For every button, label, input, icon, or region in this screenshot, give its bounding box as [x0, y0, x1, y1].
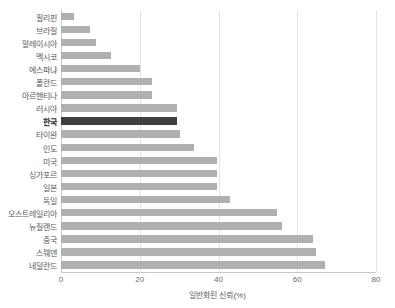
bar	[61, 144, 194, 151]
bar	[61, 65, 140, 72]
bar	[61, 104, 177, 111]
y-axis-tick-label: 뉴질랜드	[0, 221, 57, 232]
y-axis-tick-label: 멕시코	[0, 51, 57, 62]
x-axis-tick-label: 80	[372, 275, 381, 284]
bar-row	[61, 246, 376, 259]
bar	[61, 261, 325, 268]
bar	[61, 248, 316, 255]
y-axis-tick-label: 한국	[0, 116, 57, 127]
bar	[61, 130, 180, 137]
x-axis-line	[61, 272, 376, 273]
x-axis-tick-label: 40	[214, 275, 223, 284]
bar-row	[61, 62, 376, 75]
y-axis-tick-label: 에스파냐	[0, 64, 57, 75]
x-axis-tick-label: 60	[293, 275, 302, 284]
y-axis-tick-label: 말레이시아	[0, 38, 57, 49]
bar	[61, 78, 152, 85]
bar	[61, 157, 217, 164]
y-axis-tick-label: 싱가포르	[0, 169, 57, 180]
y-axis-tick-label: 폴란드	[0, 77, 57, 88]
bar	[61, 222, 282, 229]
y-axis-tick-label: 타이완	[0, 129, 57, 140]
bar-row	[61, 10, 376, 23]
bar	[61, 196, 230, 203]
y-axis-tick-label: 중국	[0, 234, 57, 245]
bar	[61, 52, 111, 59]
bar	[61, 39, 96, 46]
bar-row	[61, 180, 376, 193]
y-axis-tick-label: 필리핀	[0, 12, 57, 23]
x-axis-title-label: 일반화된 신뢰(%)	[189, 289, 246, 300]
bar	[61, 235, 313, 242]
bar-row	[61, 36, 376, 49]
y-axis-tick-label: 일본	[0, 182, 57, 193]
bar	[61, 209, 277, 216]
bar-row	[61, 193, 376, 206]
x-axis-title: 일반화된 신뢰(%)	[0, 289, 395, 300]
y-axis-tick-label: 스웨덴	[0, 247, 57, 258]
bar-row	[61, 102, 376, 115]
x-axis-tick-label: 0	[59, 275, 63, 284]
y-axis-tick-label: 아르헨티나	[0, 90, 57, 101]
y-axis-tick-label: 인도	[0, 143, 57, 154]
bar	[61, 26, 90, 33]
bar-row	[61, 220, 376, 233]
bar-row	[61, 233, 376, 246]
bar-row	[61, 141, 376, 154]
bar-row	[61, 115, 376, 128]
y-axis-tick-label: 러시아	[0, 103, 57, 114]
bar	[61, 183, 217, 190]
bar-row	[61, 23, 376, 36]
plot-area	[61, 10, 376, 272]
bar-row	[61, 89, 376, 102]
y-axis-tick-label: 오스트레일리아	[0, 208, 57, 219]
bar	[61, 170, 217, 177]
bar	[61, 91, 152, 98]
bar-chart: 필리핀브라질말레이시아멕시코에스파냐폴란드아르헨티나러시아한국타이완인도미국싱가…	[0, 0, 395, 308]
y-axis-tick-label: 독일	[0, 195, 57, 206]
gridline	[376, 10, 377, 272]
bar-row	[61, 128, 376, 141]
bar-row	[61, 76, 376, 89]
bar-row	[61, 154, 376, 167]
y-axis-tick-label: 미국	[0, 156, 57, 167]
bar	[61, 117, 177, 124]
y-axis-tick-label: 브라질	[0, 25, 57, 36]
bar-row	[61, 259, 376, 272]
y-axis-tick-label: 네덜란드	[0, 260, 57, 271]
bar	[61, 13, 74, 20]
bar-row	[61, 167, 376, 180]
bar-row	[61, 49, 376, 62]
x-axis-tick-label: 20	[135, 275, 144, 284]
bar-row	[61, 207, 376, 220]
